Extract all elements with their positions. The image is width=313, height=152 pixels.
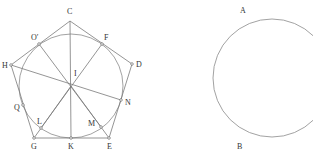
point-n-marker <box>120 99 123 102</box>
segment-HN <box>11 65 121 100</box>
segment-CK <box>70 21 71 138</box>
point-q-marker <box>22 104 25 107</box>
point-label-f: F <box>104 33 109 42</box>
segment-IE <box>71 86 109 138</box>
point-label-m: M <box>88 119 95 128</box>
segment-IG <box>34 86 71 138</box>
point-e-marker <box>108 137 111 140</box>
point-label-k: K <box>68 142 74 151</box>
point-label-e: E <box>107 142 112 151</box>
segment-HC <box>11 21 70 65</box>
circle-figure: AB <box>213 6 313 151</box>
point-o-prime-marker <box>38 43 41 46</box>
point-label-n: N <box>125 98 131 107</box>
circle-arc <box>213 19 313 137</box>
point-label-g: G <box>31 142 37 151</box>
segment-CD <box>70 21 132 64</box>
point-l-marker <box>40 127 43 130</box>
point-label-q: Q <box>14 103 20 112</box>
point-label-h: H <box>2 61 8 70</box>
point-label-d: D <box>136 60 142 69</box>
point-h-marker <box>10 64 13 67</box>
point-m-marker <box>100 126 103 129</box>
segment-GH <box>11 65 34 138</box>
point-k-marker <box>70 137 73 140</box>
point-label-o-prime: O′ <box>31 33 39 42</box>
label-b: B <box>237 142 242 151</box>
geometry-diagram: CDEGHIKO′FNQLM AB <box>0 0 313 152</box>
point-label-l: L <box>37 117 42 126</box>
point-label-i: I <box>74 69 77 78</box>
label-a: A <box>240 6 246 15</box>
point-f-marker <box>101 43 104 46</box>
point-d-marker <box>131 63 134 66</box>
point-g-marker <box>33 137 36 140</box>
point-label-c: C <box>67 7 72 16</box>
pentagon-figure: CDEGHIKO′FNQLM <box>2 7 142 151</box>
